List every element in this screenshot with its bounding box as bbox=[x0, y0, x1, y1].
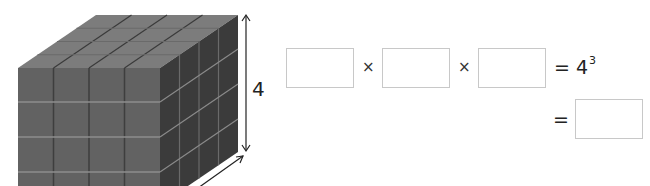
answer-box-3[interactable] bbox=[478, 48, 546, 88]
cube-front-face bbox=[18, 68, 160, 186]
equals-power-expression: = 43 bbox=[554, 58, 596, 77]
answer-box-1[interactable] bbox=[286, 48, 354, 88]
multiply-sign-2: × bbox=[458, 60, 471, 75]
height-arrow-icon bbox=[242, 15, 250, 151]
power-exponent: 3 bbox=[589, 54, 596, 67]
equals-sign-2: = bbox=[553, 110, 569, 129]
result-box[interactable] bbox=[575, 99, 643, 139]
answer-box-2[interactable] bbox=[382, 48, 450, 88]
multiply-sign-1: × bbox=[362, 60, 375, 75]
height-dimension-label: 4 bbox=[252, 79, 265, 99]
power-base: 4 bbox=[576, 56, 588, 78]
equals-sign-1: = bbox=[554, 56, 570, 78]
cube-diagram bbox=[0, 0, 280, 186]
